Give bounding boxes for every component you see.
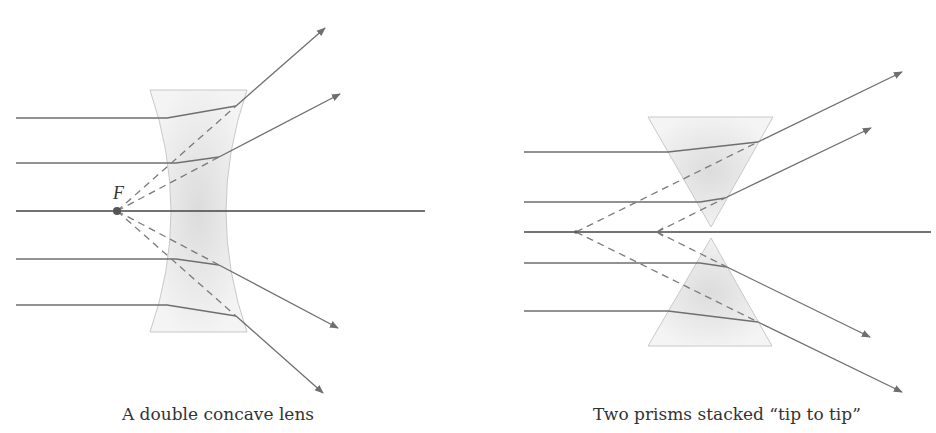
optics-diagram — [0, 0, 936, 433]
prisms-diagram — [524, 72, 931, 392]
right-caption: Two prisms stacked “tip to tip” — [593, 404, 861, 424]
focal-point-label: F — [113, 183, 124, 204]
focal-point-dot — [113, 207, 121, 215]
prism-focal-point-dot — [574, 230, 578, 234]
lower-prism — [648, 238, 772, 346]
left-caption: A double concave lens — [122, 404, 314, 424]
double-concave-lens-diagram — [16, 28, 425, 393]
upper-prism — [648, 117, 773, 227]
